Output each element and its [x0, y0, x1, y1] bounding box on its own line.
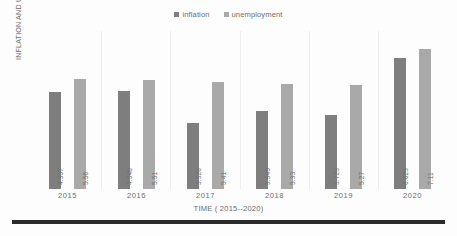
bar-value-label: 7.11: [427, 172, 434, 185]
bar-value-label: 5.41: [220, 172, 227, 185]
bar-value-label: 3.328: [195, 168, 202, 185]
plot-area: 4.907 5.56 4.948 5.51 3.328: [33, 31, 447, 189]
bar-wrap[interactable]: 5.41: [212, 31, 224, 189]
bar-wrap[interactable]: 3.723: [325, 31, 337, 189]
bar-wrap[interactable]: 7.11: [419, 31, 431, 189]
bar-unemployment[interactable]: [419, 49, 431, 189]
x-tick-2019: 2019: [309, 191, 378, 200]
bar-group: 3.328 5.41: [171, 31, 240, 189]
bar-group: 3.723 5.27: [309, 31, 378, 189]
bar-wrap[interactable]: 4.907: [49, 31, 61, 189]
bar-group: 4.948 5.51: [102, 31, 171, 189]
legend-item-unemployment[interactable]: unemployment: [224, 10, 283, 19]
bar-value-label: 4.907: [57, 168, 64, 185]
bar-value-label: 5.56: [82, 172, 89, 185]
y-axis-title: INFLATION AND UNEMPLOYMENT (%): [14, 0, 26, 60]
bottom-rule: [12, 220, 445, 224]
bar-chart: inflation unemployment INFLATION AND UNE…: [0, 0, 457, 236]
bar-value-label: 5.51: [151, 172, 158, 185]
legend-swatch-inflation: [174, 12, 179, 17]
bar-value-label: 5.27: [358, 172, 365, 185]
bar-group: 4.907 5.56: [33, 31, 102, 189]
bar-wrap[interactable]: 5.27: [350, 31, 362, 189]
legend-item-inflation[interactable]: inflation: [174, 10, 209, 19]
x-tick-2018: 2018: [240, 191, 309, 200]
chart-legend: inflation unemployment: [0, 10, 457, 19]
bar-group: 6.623 7.11: [378, 31, 447, 189]
bar-value-label: 3.945: [264, 168, 271, 185]
bar-wrap[interactable]: 5.33: [281, 31, 293, 189]
x-tick-2015: 2015: [33, 191, 102, 200]
x-tick-2017: 2017: [171, 191, 240, 200]
legend-label-inflation: inflation: [182, 10, 209, 19]
bar-wrap[interactable]: 5.51: [143, 31, 155, 189]
bar-wrap[interactable]: 3.328: [187, 31, 199, 189]
bar-value-label: 5.33: [289, 172, 296, 185]
x-axis-title: TIME ( 2015--2020): [0, 204, 457, 213]
legend-swatch-unemployment: [224, 12, 229, 17]
bar-group: 3.945 5.33: [240, 31, 309, 189]
x-tick-2016: 2016: [102, 191, 171, 200]
bar-value-label: 4.948: [126, 168, 133, 185]
bar-value-label: 6.623: [402, 168, 409, 185]
bar-wrap[interactable]: 3.945: [256, 31, 268, 189]
bar-wrap[interactable]: 5.56: [74, 31, 86, 189]
bar-wrap[interactable]: 6.623: [394, 31, 406, 189]
bar-value-label: 3.723: [333, 168, 340, 185]
legend-label-unemployment: unemployment: [232, 10, 283, 19]
bar-wrap[interactable]: 4.948: [118, 31, 130, 189]
x-tick-2020: 2020: [378, 191, 447, 200]
x-axis-tick-labels: 2015 2016 2017 2018 2019 2020: [33, 191, 447, 200]
